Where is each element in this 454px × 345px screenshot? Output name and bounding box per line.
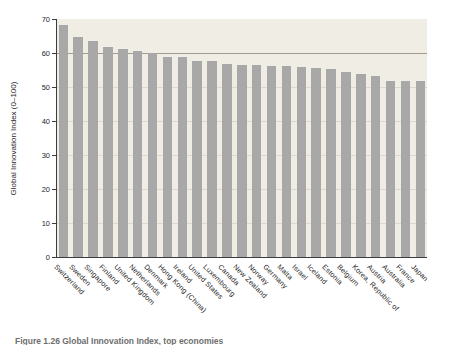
bar (356, 74, 366, 257)
bar (416, 81, 426, 257)
bar (326, 69, 336, 257)
y-tick-label: 30 (20, 151, 50, 160)
bar (297, 67, 307, 257)
bar (386, 81, 396, 257)
bar (282, 66, 292, 257)
bar (237, 65, 247, 257)
bar (103, 47, 113, 257)
y-tick-mark (52, 19, 57, 20)
y-tick-mark (52, 257, 57, 258)
bar (252, 65, 262, 257)
y-tick-label: 50 (20, 83, 50, 92)
bar (207, 61, 217, 257)
bar (148, 53, 158, 257)
y-tick-label: 10 (20, 219, 50, 228)
bar (371, 76, 381, 257)
bar (311, 68, 321, 257)
y-tick-label: 70 (20, 15, 50, 24)
bar (341, 72, 351, 257)
y-tick-label: 20 (20, 185, 50, 194)
bar (133, 51, 143, 257)
figure-caption: Figure 1.26 Global Innovation Index, top… (15, 336, 223, 345)
bar (163, 57, 173, 257)
y-tick-label: 60 (20, 49, 50, 58)
bar (192, 61, 202, 257)
bar (267, 66, 277, 257)
bar (222, 64, 232, 257)
y-axis-title: Global Innovation Index (0–100) (9, 74, 18, 204)
plot-area (57, 19, 427, 257)
bar (178, 57, 188, 257)
y-tick-label: 0 (20, 253, 50, 262)
bar (401, 81, 411, 257)
y-tick-label: 40 (20, 117, 50, 126)
bar (88, 41, 98, 257)
figure-root: Global Innovation Index (0–100) 01020304… (0, 0, 454, 345)
bar (73, 37, 83, 257)
bar (118, 49, 128, 257)
x-axis-line (56, 257, 427, 258)
bar (59, 25, 69, 257)
